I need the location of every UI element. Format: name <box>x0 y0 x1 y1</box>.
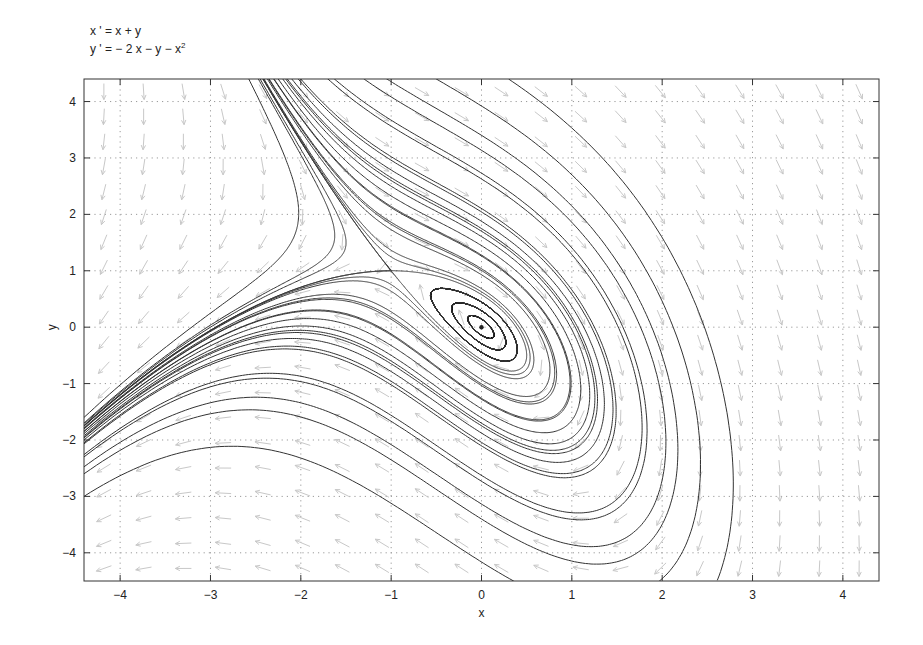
x-tick-label: 2 <box>659 588 666 602</box>
y-tick-label: 0 <box>69 320 76 334</box>
y-tick-label: −1 <box>62 377 76 391</box>
trajectory-curve <box>84 79 335 424</box>
trajectories <box>82 76 734 583</box>
x-tick-label: −3 <box>204 588 218 602</box>
trajectory-curve <box>82 79 391 428</box>
x-tick-label: −1 <box>384 588 398 602</box>
trajectory-curve <box>83 77 550 429</box>
x-tick-label: 3 <box>749 588 756 602</box>
trajectory-curve <box>84 446 517 583</box>
x-tick-label: 4 <box>840 588 847 602</box>
x-tick-label: −2 <box>294 588 308 602</box>
x-tick-label: 1 <box>568 588 575 602</box>
trajectory-curve <box>83 77 642 513</box>
trajectory-curve <box>452 303 506 350</box>
y-tick-label: 4 <box>69 95 76 109</box>
y-tick-label: 3 <box>69 151 76 165</box>
x-tick-label: 0 <box>478 588 485 602</box>
axis-ticks: −4−3−2−101234−4−3−2−101234 <box>62 79 879 602</box>
x-axis-label: x <box>479 606 485 620</box>
equilibrium-point <box>479 325 483 329</box>
trajectory-curve <box>85 79 346 423</box>
phase-portrait-plot: −4−3−2−101234−4−3−2−101234 x y <box>0 0 923 645</box>
y-tick-label: 2 <box>69 207 76 221</box>
trajectory-curve <box>431 288 518 361</box>
y-axis-label: y <box>45 324 59 330</box>
y-tick-label: 1 <box>69 264 76 278</box>
trajectory-curve <box>433 77 701 583</box>
x-tick-label: −4 <box>113 588 127 602</box>
y-tick-label: −2 <box>62 433 76 447</box>
trajectory-curve <box>82 79 557 431</box>
y-tick-label: −4 <box>62 546 76 560</box>
y-tick-label: −3 <box>62 489 76 503</box>
